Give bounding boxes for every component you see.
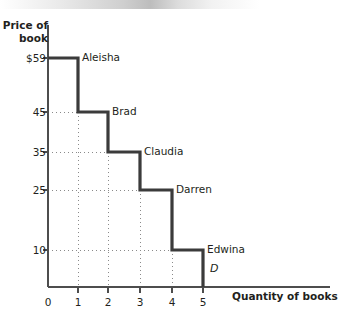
y-axis-title-line1: Price of [3,19,48,31]
x-tick-label-1: 1 [68,296,88,308]
y-tick-label-25: 25 [2,184,46,196]
y-axis-title: Price of book [2,19,48,44]
y-axis-title-line2: book [19,32,48,44]
x-tick-label-5: 5 [193,296,213,308]
x-tick-label-2: 2 [98,296,118,308]
point-label-claudia: Claudia [144,145,183,157]
point-label-aleisha: Aleisha [82,51,120,63]
chart-canvas [0,0,342,316]
x-axis-ticks [78,287,203,293]
x-axis-title: Quantity of books [232,290,338,303]
horizontal-gridlines [48,112,203,250]
demand-curve-label: D [210,262,218,275]
y-tick-label-45: 45 [2,106,46,118]
demand-step-curve [48,58,203,287]
y-tick-label-59: $59 [2,52,46,64]
point-label-brad: Brad [112,105,137,117]
x-tick-label-4: 4 [162,296,182,308]
x-tick-label-0: 0 [38,296,58,308]
point-label-darren: Darren [176,183,212,195]
y-tick-label-35: 35 [2,146,46,158]
x-tick-label-3: 3 [130,296,150,308]
vertical-gridlines [78,112,172,286]
demand-curve-chart: Price of book Quantity of books $59 45 3… [0,0,342,316]
y-tick-label-10: 10 [2,244,46,256]
point-label-edwina: Edwina [207,243,245,255]
